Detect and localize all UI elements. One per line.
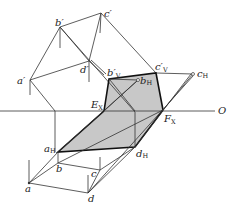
label-d-prime: d′ [80,64,89,75]
label-c: c [91,168,97,179]
label-aH: aH [44,143,56,155]
label-cH: cH [197,68,209,80]
projection-diagram: a′ b′ c′ d′ b′V c′V bH cH EX FX O aH dH … [0,0,243,213]
point-cH-marker [192,73,195,76]
label-b-prime: b′ [55,17,64,28]
label-FX: FX [163,113,176,126]
label-c-prime: c′ [104,8,113,19]
label-a: a [25,183,31,194]
label-a-prime: a′ [17,75,26,86]
label-axis-O: O [218,105,226,116]
label-b: b [56,163,62,174]
label-cV: c′V [155,61,168,74]
label-dH: dH [136,148,148,160]
label-d: d [88,193,94,204]
label-EX: EX [90,99,103,112]
